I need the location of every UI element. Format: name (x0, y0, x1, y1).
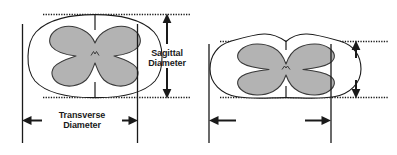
transverse-label-line1: Transverse (59, 110, 106, 120)
figure-canvas: Sagittal Diameter Transverse Diameter (0, 0, 397, 155)
sagittal-label-line2: Diameter (148, 58, 186, 68)
transverse-diameter-arrow (209, 116, 331, 125)
sagittal-diameter-label-left: Sagittal Diameter (141, 48, 193, 68)
diagram-panel-flattened-cord: Sagittal Diameter Transverse Diameter (198, 0, 397, 155)
sagittal-label-line1: Sagittal (151, 48, 183, 58)
diagram-panel-normal-cord: Sagittal Diameter Transverse Diameter (0, 0, 199, 155)
transverse-diameter-label-left: Transverse Diameter (39, 110, 125, 130)
transverse-label-line2: Diameter (63, 120, 101, 130)
normal-cord-svg (0, 0, 199, 155)
flattened-cord-svg (198, 0, 397, 155)
